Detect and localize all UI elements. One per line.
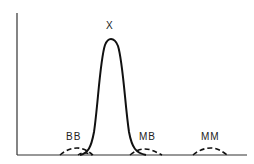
label-mm: MM (201, 131, 220, 142)
chart: X BB MB MM (0, 0, 254, 164)
label-x: X (106, 20, 114, 31)
peak-x (80, 39, 146, 155)
label-bb: BB (66, 131, 81, 142)
peak-mm (193, 148, 227, 155)
label-mb: MB (139, 131, 156, 142)
